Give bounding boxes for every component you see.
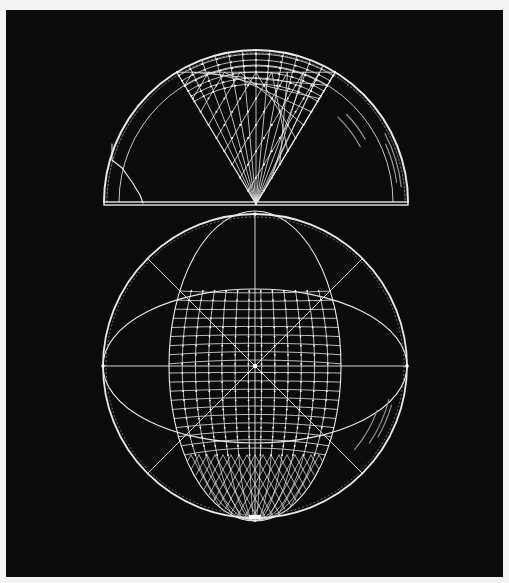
node-dot: [218, 64, 220, 66]
node-dot: [295, 65, 297, 67]
node-dot: [203, 445, 205, 447]
node-dot: [221, 381, 223, 383]
node-dot: [271, 124, 273, 126]
node-dot: [316, 445, 318, 447]
node-dot: [225, 436, 227, 438]
node-dot: [212, 427, 214, 429]
node-dot: [207, 124, 209, 126]
node-dot: [198, 418, 200, 420]
node-dot: [207, 98, 209, 100]
node-dot: [273, 418, 275, 420]
node-dot: [222, 399, 224, 401]
node-dot: [235, 409, 237, 411]
node-dot: [248, 308, 250, 310]
pole-mark: [249, 515, 261, 519]
node-dot: [274, 354, 276, 356]
node-dot: [261, 399, 263, 401]
node-dot: [272, 299, 274, 301]
node-dot: [193, 100, 195, 102]
node-dot: [184, 84, 186, 86]
node-dot: [314, 372, 316, 374]
node-dot: [195, 390, 197, 392]
node-dot: [202, 290, 204, 292]
node-dot: [199, 308, 201, 310]
node-dot: [260, 436, 262, 438]
node-dot: [199, 427, 201, 429]
node-dot: [248, 336, 250, 338]
node-dot: [190, 95, 192, 97]
node-dot: [248, 381, 250, 383]
node-dot: [209, 336, 211, 338]
node-dot: [178, 75, 180, 77]
node-dot: [255, 177, 257, 179]
node-dot: [287, 372, 289, 374]
node-dot: [313, 336, 315, 338]
node-dot: [306, 290, 308, 292]
node-dot: [234, 354, 236, 356]
node-dot: [181, 372, 183, 374]
node-dot: [310, 308, 312, 310]
node-dot: [236, 427, 238, 429]
node-dot: [223, 317, 225, 319]
node-dot: [253, 364, 257, 368]
node-dot: [195, 363, 197, 365]
node-dot: [192, 74, 194, 76]
node-dot: [197, 409, 199, 411]
node-dot: [260, 409, 262, 411]
node-dot: [263, 84, 265, 86]
node-dot: [311, 317, 313, 319]
node-dot: [195, 354, 197, 356]
lattice-line: [201, 72, 225, 112]
node-dot: [255, 53, 257, 55]
node-dot: [279, 67, 281, 69]
node-dot: [300, 363, 302, 365]
node-dot: [261, 381, 263, 383]
node-dot: [189, 436, 191, 438]
node-dot: [274, 390, 276, 392]
node-dot: [310, 84, 312, 86]
node-dot: [195, 372, 197, 374]
node-dot: [274, 336, 276, 338]
crack-line: [112, 160, 143, 203]
node-dot: [300, 336, 302, 338]
node-dot: [196, 327, 198, 329]
node-dot: [309, 63, 311, 65]
node-dot: [231, 67, 233, 69]
node-dot: [248, 409, 250, 411]
node-dot: [273, 409, 275, 411]
node-dot: [310, 418, 312, 420]
node-dot: [294, 445, 296, 447]
lattice-line: [268, 455, 303, 519]
lattice-line: [207, 455, 242, 519]
node-dot: [234, 85, 236, 87]
node-dot: [209, 399, 211, 401]
node-dot: [274, 381, 276, 383]
node-dot: [223, 308, 225, 310]
node-dot: [247, 190, 249, 192]
node-dot: [284, 427, 286, 429]
node-dot: [219, 70, 221, 72]
node-dot: [239, 177, 241, 179]
node-dot: [248, 290, 250, 292]
node-dot: [318, 290, 320, 292]
node-dot: [200, 111, 202, 113]
node-dot: [323, 317, 325, 319]
node-dot: [235, 390, 237, 392]
node-dot: [261, 336, 263, 338]
node-dot: [325, 399, 327, 401]
lattice-line: [214, 455, 239, 501]
node-dot: [234, 381, 236, 383]
node-dot: [221, 363, 223, 365]
node-dot: [237, 445, 239, 447]
node-dot: [305, 445, 307, 447]
node-dot: [235, 399, 237, 401]
node-dot: [279, 84, 281, 86]
node-dot: [261, 372, 263, 374]
node-dot: [208, 345, 210, 347]
node-dot: [208, 354, 210, 356]
node-dot: [323, 418, 325, 420]
node-dot: [247, 111, 249, 113]
node-dot: [247, 84, 249, 86]
node-dot: [260, 445, 262, 447]
node-dot: [182, 390, 184, 392]
